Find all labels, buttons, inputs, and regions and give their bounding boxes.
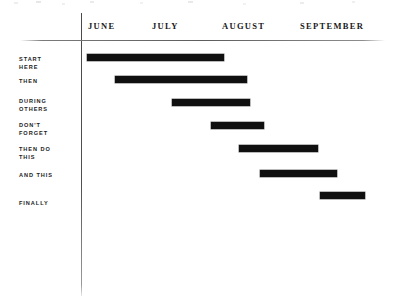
month-label-june: JUNE (88, 21, 115, 31)
gantt-chart: JUNE JULY AUGUST SEPTEMBER START HERE TH… (0, 0, 407, 307)
task-label-dont-forget: DON'T FORGET (19, 122, 48, 137)
gantt-bar-during-others (172, 99, 250, 106)
vertical-axis-line (81, 13, 82, 296)
task-label-then: THEN (19, 78, 38, 86)
gantt-bar-then-do-this (239, 145, 318, 152)
task-label-finally: FINALLY (19, 200, 49, 208)
gantt-bar-and-this (260, 170, 337, 177)
month-label-august: AUGUST (222, 21, 265, 31)
scan-noise-decoration (0, 0, 407, 12)
task-label-start-here: START HERE (19, 56, 42, 71)
horizontal-axis-line (20, 40, 385, 41)
gantt-bar-start-here (87, 54, 224, 61)
gantt-bar-then (115, 76, 247, 83)
gantt-bar-finally (320, 192, 365, 199)
gantt-bar-dont-forget (211, 122, 264, 129)
task-label-and-this: AND THIS (19, 172, 53, 180)
task-label-during-others: DURING OTHERS (19, 98, 48, 113)
task-label-then-do-this: THEN DO THIS (19, 146, 51, 161)
month-label-september: SEPTEMBER (300, 21, 364, 31)
month-label-july: JULY (152, 21, 179, 31)
